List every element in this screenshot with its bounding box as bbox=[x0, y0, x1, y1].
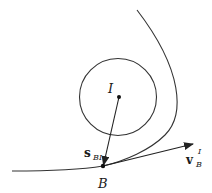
point-b bbox=[101, 164, 105, 168]
trajectory-curve bbox=[12, 10, 177, 171]
label-b: B bbox=[97, 176, 108, 191]
label-v: v bbox=[185, 153, 194, 167]
label-v-sup: I bbox=[197, 147, 202, 156]
label-s-sub: BI bbox=[92, 153, 103, 162]
vector-s-bi bbox=[104, 97, 120, 165]
vector-v-b bbox=[103, 144, 193, 166]
diagram-canvas: I B s BI v I B bbox=[0, 0, 212, 193]
point-i bbox=[117, 95, 121, 99]
label-s: s bbox=[84, 146, 91, 160]
label-v-sub: B bbox=[195, 160, 202, 169]
label-i: I bbox=[107, 81, 114, 96]
